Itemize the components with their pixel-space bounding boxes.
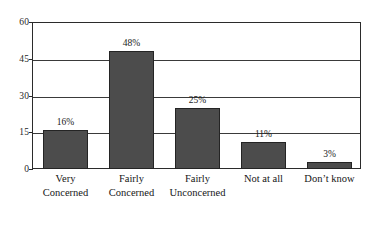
y-tick-label-30: 30	[3, 91, 29, 101]
bar-label-very-concerned: 16%	[57, 117, 74, 128]
bar-slot-not-at-all: 11%	[241, 22, 286, 169]
bar-dont-know[interactable]	[307, 162, 352, 169]
bar-fairly-unconcerned[interactable]	[175, 108, 220, 169]
bar-label-dont-know: 3%	[323, 149, 336, 160]
bar-slot-dont-know: 3%	[307, 22, 352, 169]
y-tick-label-45: 45	[3, 54, 29, 64]
bar-label-fairly-unconcerned: 25%	[189, 95, 206, 106]
bar-label-not-at-all: 11%	[255, 129, 272, 140]
bars-layer: 16% 48% 25% 11% 3%	[32, 22, 361, 169]
x-axis: Very Concerned Fairly Concerned Fairly U…	[32, 172, 361, 220]
x-category-dont-know-line1: Don’t know	[289, 172, 370, 186]
x-category-dont-know: Don’t know	[289, 172, 370, 186]
bar-chart: 60 45 30 15 0 16% 48% 25% 11%	[0, 0, 384, 225]
bar-slot-fairly-unconcerned: 25%	[175, 22, 220, 169]
bar-not-at-all[interactable]	[241, 142, 286, 169]
x-category-fairly-unconcerned-line2: Unconcerned	[157, 186, 238, 200]
bar-slot-very-concerned: 16%	[43, 22, 88, 169]
bar-label-fairly-concerned: 48%	[123, 38, 140, 49]
y-tick-label-60: 60	[3, 17, 29, 27]
y-axis: 60 45 30 15 0	[0, 22, 29, 169]
y-tick-mark-0	[29, 169, 33, 170]
bar-slot-fairly-concerned: 48%	[109, 22, 154, 169]
y-tick-label-15: 15	[3, 127, 29, 137]
bar-very-concerned[interactable]	[43, 130, 88, 169]
bar-fairly-concerned[interactable]	[109, 51, 154, 169]
